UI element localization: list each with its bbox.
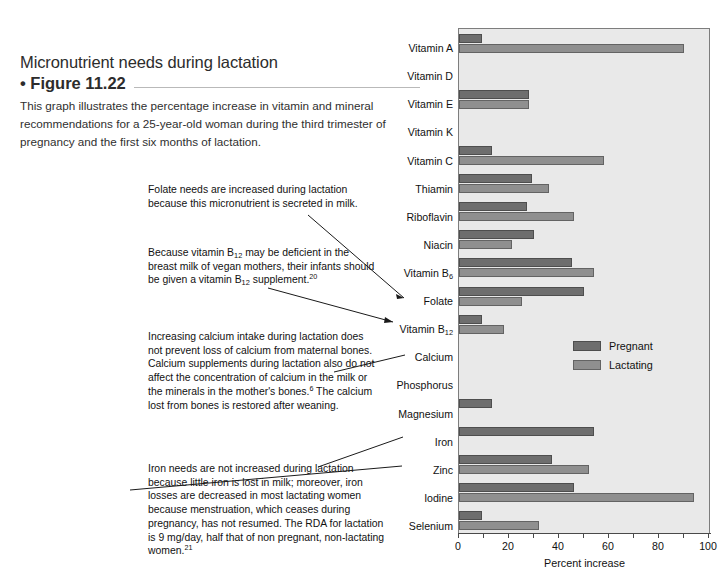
bar-lactating-vitamin-b6 (459, 268, 594, 277)
x-tick-70 (633, 533, 634, 538)
annotation-b12-subscript-2: 12 (242, 278, 250, 287)
annotation-iron: Iron needs are not increased during lact… (148, 462, 386, 558)
header-divider (134, 87, 420, 88)
figure-number-row: • Figure 11.22 (20, 74, 420, 93)
annotation-vitamin-b12: Because vitamin B12 may be deficient in … (148, 246, 380, 287)
figure-number: • Figure 11.22 (20, 74, 126, 93)
bar-pregnant-iron (459, 427, 594, 436)
x-tick-label-40: 40 (552, 540, 564, 552)
bar-lactating-folate (459, 297, 522, 306)
legend-label-lactating: Lactating (609, 359, 653, 371)
bar-lactating-riboflavin (459, 212, 574, 221)
bar-pregnant-vitamin-e (459, 90, 529, 99)
legend-label-pregnant: Pregnant (609, 340, 653, 352)
annotation-iron-reference: 21 (184, 543, 192, 552)
x-tick-50 (583, 533, 584, 538)
chart-legend: Pregnant Lactating (573, 340, 653, 378)
bar-lactating-selenium (459, 521, 539, 530)
x-tick-label-80: 80 (652, 540, 664, 552)
x-tick-label-60: 60 (602, 540, 614, 552)
bar-pregnant-magnesium (459, 399, 492, 408)
page-title: Micronutrient needs during lactation (20, 52, 420, 73)
bar-pregnant-vitamin-b12 (459, 315, 482, 324)
bar-pregnant-selenium (459, 511, 482, 520)
bar-pregnant-riboflavin (459, 202, 527, 211)
x-tick-label-100: 100 (699, 540, 717, 552)
x-tick-30 (533, 533, 534, 538)
bar-chart: Vitamin AVitamin DVitamin EVitamin KVita… (425, 0, 726, 576)
legend-item-lactating: Lactating (573, 359, 653, 371)
x-tick-0 (458, 533, 459, 538)
bar-lactating-iodine (459, 493, 694, 502)
bar-pregnant-vitamin-a (459, 34, 482, 43)
x-tick-90 (683, 533, 684, 538)
legend-item-pregnant: Pregnant (573, 340, 653, 352)
bar-lactating-vitamin-e (459, 100, 529, 109)
figure-caption: This graph illustrates the percentage in… (20, 97, 395, 151)
x-tick-label-0: 0 (455, 540, 461, 552)
x-axis-title: Percent increase (458, 557, 711, 569)
annotation-b12-text-1: Because vitamin B (148, 247, 234, 258)
bar-lactating-niacin (459, 240, 512, 249)
bar-pregnant-vitamin-b6 (459, 258, 572, 267)
chart-category-axis: Vitamin AVitamin DVitamin EVitamin KVita… (425, 28, 453, 534)
x-tick-60 (608, 533, 609, 538)
bar-lactating-thiamin (459, 184, 549, 193)
annotation-b12-reference: 20 (309, 272, 317, 281)
bar-pregnant-folate (459, 287, 584, 296)
bar-pregnant-thiamin (459, 174, 532, 183)
bar-lactating-vitamin-c (459, 156, 604, 165)
annotation-folate: Folate needs are increased during lactat… (148, 183, 363, 210)
figure-header: Micronutrient needs during lactation • F… (20, 52, 420, 93)
bar-pregnant-niacin (459, 230, 534, 239)
x-tick-80 (658, 533, 659, 538)
bar-pregnant-iodine (459, 483, 574, 492)
bar-pregnant-zinc (459, 455, 552, 464)
x-tick-100 (708, 533, 709, 538)
bar-lactating-vitamin-a (459, 44, 684, 53)
annotation-calcium: Increasing calcium intake during lactati… (148, 330, 380, 412)
annotation-b12-text-3: supplement. (250, 274, 310, 285)
chart-plot-area (458, 28, 710, 534)
x-tick-label-20: 20 (502, 540, 514, 552)
figure-text-column: Micronutrient needs during lactation • F… (0, 0, 430, 576)
x-tick-40 (558, 533, 559, 538)
bar-pregnant-vitamin-c (459, 146, 492, 155)
bar-lactating-vitamin-b12 (459, 325, 504, 334)
legend-swatch-pregnant (573, 341, 601, 351)
chart-x-axis: 020406080100 (458, 533, 711, 534)
bar-lactating-zinc (459, 465, 589, 474)
legend-swatch-lactating (573, 360, 601, 370)
x-tick-10 (483, 533, 484, 538)
x-tick-20 (508, 533, 509, 538)
